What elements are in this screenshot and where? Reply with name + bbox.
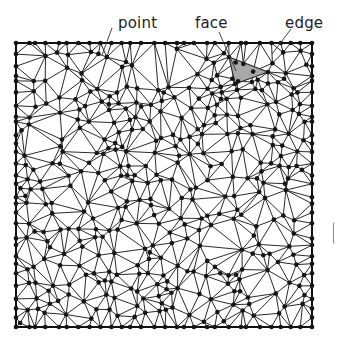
mesh-point <box>27 41 32 46</box>
mesh-point <box>22 153 27 158</box>
mesh-point <box>175 41 180 46</box>
mesh-point <box>14 236 19 241</box>
mesh-edge <box>132 65 158 90</box>
mesh-point <box>87 41 92 46</box>
mesh-point <box>266 70 271 75</box>
mesh-point <box>34 296 39 301</box>
mesh-point <box>40 187 45 192</box>
mesh-point <box>310 297 315 302</box>
mesh-edge <box>118 223 137 229</box>
mesh-point <box>239 325 244 330</box>
mesh-point <box>14 325 19 330</box>
mesh-edge <box>172 239 187 244</box>
mesh-point <box>265 102 270 107</box>
mesh-edge <box>254 293 276 315</box>
mesh-point <box>14 254 19 259</box>
mesh-point <box>78 126 83 131</box>
mesh-edge <box>294 204 312 221</box>
mesh-point <box>128 325 133 330</box>
mesh-point <box>42 311 47 316</box>
mesh-point <box>257 190 262 195</box>
mesh-edge <box>60 113 62 140</box>
mesh-point <box>277 112 282 117</box>
mesh-point <box>128 41 133 46</box>
mesh-edge <box>27 203 30 224</box>
mesh-point <box>113 141 118 146</box>
mesh-point <box>205 178 210 183</box>
mesh-point <box>175 325 180 330</box>
mesh-edge <box>88 203 118 208</box>
mesh-point <box>310 64 315 69</box>
mesh-point <box>27 281 32 286</box>
mesh-edge <box>122 43 126 62</box>
mesh-point <box>107 307 112 312</box>
mesh-point <box>218 271 223 276</box>
mesh-point <box>304 63 309 68</box>
mesh-edge <box>268 254 270 270</box>
mesh-point <box>50 211 55 216</box>
mesh-point <box>282 76 287 81</box>
mesh-point <box>310 119 315 124</box>
mesh-point <box>132 315 137 320</box>
mesh-point <box>96 253 101 258</box>
mesh-point <box>126 164 131 169</box>
mesh-point <box>166 85 171 90</box>
mesh-edge <box>52 186 71 203</box>
mesh-point <box>139 104 144 109</box>
mesh-point <box>94 307 99 312</box>
mesh-point <box>14 210 19 215</box>
mesh-point <box>95 87 100 92</box>
mesh-point <box>201 151 206 156</box>
mesh-point <box>133 115 138 120</box>
mesh-point <box>67 282 72 287</box>
mesh-edge <box>122 130 132 147</box>
mesh-point <box>288 325 293 330</box>
mesh-edge <box>239 279 248 297</box>
mesh-edge <box>241 89 255 98</box>
mesh-point <box>289 92 294 97</box>
mesh-edge <box>25 125 29 156</box>
mesh-point <box>209 223 214 228</box>
mesh-point <box>204 57 209 62</box>
mesh-point <box>245 176 250 181</box>
mesh-point <box>302 273 307 278</box>
mesh-edge <box>170 224 185 232</box>
mesh-point <box>286 176 291 181</box>
mesh-edge <box>238 133 243 149</box>
mesh-point <box>177 154 182 159</box>
mesh-edge <box>79 255 98 265</box>
mesh-point <box>58 144 63 149</box>
mesh-point <box>103 278 108 283</box>
mesh-point <box>200 132 205 137</box>
mesh-point <box>170 305 175 310</box>
mesh-edge <box>127 87 137 103</box>
mesh-edge <box>292 95 293 111</box>
mesh-edge <box>161 258 178 266</box>
mesh-point <box>271 143 276 148</box>
mesh-point <box>300 168 305 173</box>
mesh-edge <box>227 115 228 134</box>
mesh-point <box>270 61 275 66</box>
mesh-point <box>14 103 19 108</box>
mesh-point <box>222 319 227 324</box>
mesh-edge <box>278 262 296 265</box>
mesh-point <box>137 198 142 203</box>
mesh-edge <box>137 88 151 104</box>
mesh-edge <box>197 59 206 74</box>
mesh-edge <box>53 146 61 163</box>
mesh-edge <box>117 274 140 275</box>
mesh-edge <box>248 270 268 297</box>
mesh-point <box>44 101 49 106</box>
mesh-point <box>236 114 241 119</box>
mesh-edge <box>197 63 214 74</box>
mesh-point <box>125 84 130 89</box>
mesh-point <box>104 293 109 298</box>
mesh-edge <box>114 253 117 275</box>
mesh-point <box>266 81 271 86</box>
mesh-edge <box>280 166 285 184</box>
mesh-point <box>107 108 112 113</box>
mesh-point <box>102 137 107 142</box>
mesh-edge <box>200 246 242 250</box>
mesh-point <box>66 173 71 178</box>
mesh-point <box>171 133 176 138</box>
